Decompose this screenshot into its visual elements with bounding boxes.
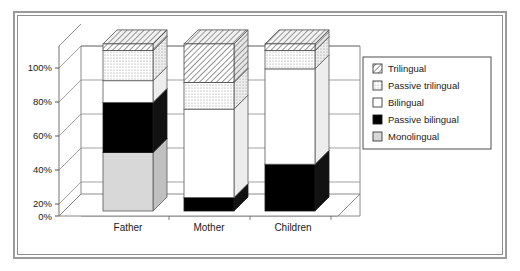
legend-item-trilingual[interactable]: Trilingual (373, 63, 426, 74)
bar-mother[interactable] (184, 30, 248, 211)
legend-swatch-bilingual (373, 98, 382, 107)
y-tick-100: 100% (28, 62, 53, 73)
legend-swatch-passive-bilingual (373, 115, 382, 124)
legend-label-trilingual: Trilingual (388, 63, 426, 74)
y-axis-ticks (55, 68, 59, 216)
legend-swatch-passive-trilingual (373, 81, 382, 90)
legend-item-bilingual[interactable]: Bilingual (373, 97, 424, 108)
chart-image: 100% 80% 60% 40% 20% 0% (0, 0, 520, 271)
x-label-father: Father (114, 222, 144, 233)
legend-swatch-trilingual (373, 64, 382, 73)
legend-label-passive-trilingual: Passive trilingual (388, 80, 459, 91)
bar-mother-segment-bilingual[interactable] (184, 95, 248, 198)
legend-swatch-monolingual (373, 132, 382, 141)
y-tick-40: 40% (33, 164, 53, 175)
y-axis-tick-labels: 100% 80% 60% 40% 20% 0% (28, 62, 53, 222)
chart-svg: 100% 80% 60% 40% 20% 0% (17, 15, 503, 255)
bar-mother-segment-trilingual[interactable] (184, 30, 248, 83)
bar-father[interactable] (103, 30, 167, 211)
x-label-children: Children (274, 222, 311, 233)
chart-depth-edges (59, 24, 81, 216)
y-tick-60: 60% (33, 130, 53, 141)
chart-plot-area: 100% 80% 60% 40% 20% 0% (17, 15, 503, 255)
legend-label-passive-bilingual: Passive bilingual (388, 114, 459, 125)
x-axis-category-labels: Father Mother Children (114, 222, 312, 233)
y-tick-80: 80% (33, 96, 53, 107)
bar-children-segment-bilingual[interactable] (265, 55, 329, 164)
y-tick-0: 0% (38, 211, 52, 222)
bar-children[interactable] (265, 30, 329, 211)
y-tick-20: 20% (33, 198, 53, 209)
x-label-mother: Mother (193, 222, 225, 233)
legend-label-monolingual: Monolingual (388, 131, 439, 142)
x-axis-ticks (169, 216, 331, 220)
legend-label-bilingual: Bilingual (388, 97, 424, 108)
chart-legend: Trilingual Passive trilingual Bilingual … (363, 57, 491, 149)
